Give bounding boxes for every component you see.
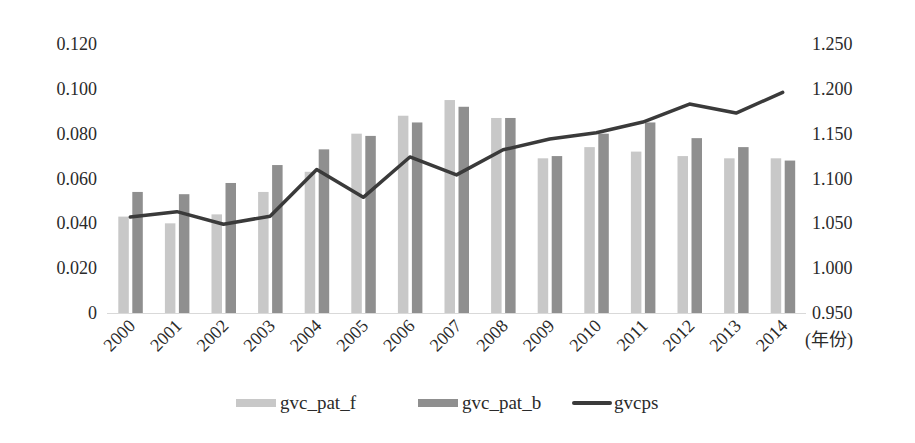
left-y-tick: 0.040 (57, 213, 98, 233)
legend-label: gvc_pat_f (280, 392, 356, 414)
bar-gvc-pat-f (305, 172, 316, 313)
bar-gvc-pat-b (598, 134, 609, 313)
left-y-tick: 0.120 (57, 34, 98, 54)
bar-gvc-pat-b (692, 138, 703, 313)
x-tick-label: 2009 (519, 316, 559, 356)
bar-gvc-pat-f (631, 152, 642, 313)
x-axis-ticks: 2000200120022003200420052006200720082009… (100, 316, 792, 356)
bar-gvc-pat-b (365, 136, 376, 313)
left-y-tick: 0.060 (57, 169, 98, 189)
x-tick-label: 2007 (426, 316, 466, 356)
combo-chart: 00.0200.0400.0600.0800.1000.120 0.9501.0… (0, 0, 915, 390)
legend-item-gvc-pat-f: gvc_pat_f (236, 392, 356, 414)
bar-gvc-pat-b (552, 156, 563, 313)
x-tick-label: 2011 (613, 316, 652, 355)
bar-gvc-pat-f (724, 158, 735, 313)
x-tick-label: 2002 (193, 316, 233, 356)
x-tick-label: 2010 (566, 316, 606, 356)
legend-swatch-gvc-pat-f (236, 399, 276, 407)
right-y-tick: 1.100 (812, 169, 853, 189)
bar-gvc-pat-f (118, 217, 129, 313)
left-y-axis: 00.0200.0400.0600.0800.1000.120 (57, 34, 98, 323)
left-y-tick: 0.080 (57, 124, 98, 144)
bar-gvc-pat-f (584, 147, 595, 313)
right-y-tick: 1.150 (812, 124, 853, 144)
x-tick-label: 2006 (379, 316, 419, 356)
legend-swatch-gvc-pat-b (418, 399, 458, 407)
bar-gvc-pat-f (538, 158, 549, 313)
bar-gvc-pat-b (459, 107, 470, 313)
left-y-tick: 0.100 (57, 79, 98, 99)
bar-gvc-pat-b (132, 192, 143, 313)
legend-label: gvc_pat_b (462, 392, 541, 414)
x-tick-label: 2000 (100, 316, 140, 356)
bar-gvc-pat-b (272, 165, 283, 313)
legend: gvc_pat_f gvc_pat_b gvcps (0, 392, 915, 422)
bar-gvc-pat-b (226, 183, 237, 313)
bar-gvc-pat-b (412, 122, 423, 313)
left-y-tick: 0.020 (57, 258, 98, 278)
bar-gvc-pat-f (771, 158, 782, 313)
x-tick-label: 2012 (659, 316, 699, 356)
x-axis-label: (年份) (805, 330, 853, 351)
right-y-tick: 1.000 (812, 258, 853, 278)
bar-gvc-pat-b (738, 147, 749, 313)
right-y-tick: 1.200 (812, 79, 853, 99)
right-y-axis: 0.9501.0001.0501.1001.1501.2001.250 (812, 34, 853, 323)
x-tick-label: 2001 (146, 316, 186, 356)
bar-gvc-pat-b (645, 122, 656, 313)
bar-gvc-pat-f (212, 214, 223, 313)
x-tick-label: 2008 (472, 316, 512, 356)
bar-gvc-pat-f (351, 134, 362, 313)
x-tick-label: 2004 (286, 316, 326, 356)
bar-gvc-pat-f (258, 192, 269, 313)
legend-item-gvc-pat-b: gvc_pat_b (418, 392, 541, 414)
x-tick-label: 2014 (752, 316, 792, 356)
x-tick-label: 2003 (239, 316, 279, 356)
left-y-tick: 0 (88, 303, 97, 323)
legend-label: gvcps (614, 392, 658, 414)
bar-gvc-pat-b (785, 161, 796, 313)
x-tick-label: 2005 (333, 316, 373, 356)
legend-swatch-gvcps (572, 401, 612, 405)
bar-gvc-pat-f (165, 223, 176, 313)
right-y-tick: 0.950 (812, 303, 853, 323)
right-y-tick: 1.050 (812, 213, 853, 233)
bar-gvc-pat-f (678, 156, 689, 313)
bar-series (118, 100, 795, 313)
x-tick-label: 2013 (705, 316, 745, 356)
bar-gvc-pat-f (445, 100, 456, 313)
legend-item-gvcps: gvcps (572, 392, 658, 414)
right-y-tick: 1.250 (812, 34, 853, 54)
bar-gvc-pat-f (398, 116, 409, 313)
bar-gvc-pat-f (491, 118, 502, 313)
